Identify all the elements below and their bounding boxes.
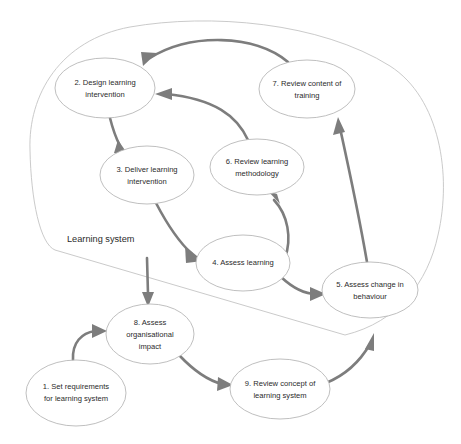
edge-8-to-9-line	[179, 355, 222, 384]
edge-3-to-8	[142, 258, 154, 307]
diagram-canvas: Learning system	[0, 0, 461, 444]
node-1-set-requirements[interactable]: 1. Set requirements for learning system	[26, 360, 126, 426]
node-6-label-line-2: methodology	[235, 169, 279, 178]
edge-3-to-8-line	[147, 258, 148, 294]
edge-8-to-9	[179, 355, 233, 391]
edge-1-to-8-arrowhead	[92, 324, 107, 338]
node-6-shape[interactable]	[210, 139, 304, 195]
edge-7-to-2-line	[150, 40, 288, 62]
learning-system-boundary-label: Learning system	[67, 234, 135, 244]
edge-9-to-5	[326, 333, 374, 383]
edge-4-to-5	[281, 277, 326, 301]
edge-5-to-7-arrowhead	[333, 117, 345, 135]
node-4-assess-learning[interactable]: 4. Assess learning	[196, 235, 290, 291]
node-3-deliver-learning-intervention[interactable]: 3. Deliver learning intervention	[100, 146, 194, 204]
node-2-label-line-1: 2. Design learning	[74, 78, 135, 87]
node-7-review-content-of-training[interactable]: 7. Review content of training	[259, 60, 355, 118]
node-1-label-line-1: 1. Set requirements	[43, 382, 109, 391]
node-8-assess-organisational-impact[interactable]: 8. Assess organisational impact	[106, 304, 194, 364]
node-2-design-learning-intervention[interactable]: 2. Design learning intervention	[55, 58, 155, 118]
node-7-shape[interactable]	[259, 60, 355, 118]
node-2-label-line-2: intervention	[85, 90, 124, 99]
edge-7-to-2-arrowhead	[141, 52, 157, 66]
node-4-label-line-1: 4. Assess learning	[212, 258, 274, 267]
node-6-review-learning-methodology[interactable]: 6. Review learning methodology	[210, 139, 304, 195]
node-8-label-line-3: impact	[139, 342, 162, 351]
edge-6-to-2-arrowhead	[155, 88, 172, 100]
learning-system-diagram: Learning system	[0, 0, 461, 444]
node-5-assess-change-in-behaviour[interactable]: 5. Assess change in behaviour	[322, 262, 418, 318]
edge-6-to-2-line	[166, 94, 248, 140]
edge-7-to-2	[141, 40, 288, 66]
edge-5-to-7-line	[340, 128, 367, 262]
edge-6-to-2	[155, 88, 248, 140]
node-7-label-line-1: 7. Review content of	[273, 79, 343, 88]
edge-9-to-5-arrowhead	[365, 333, 374, 351]
node-9-label-line-1: 9. Review concept of	[245, 379, 316, 388]
node-3-label-line-1: 3. Deliver learning	[116, 165, 177, 174]
node-6-label-line-1: 6. Review learning	[226, 157, 288, 166]
node-8-label-line-2: organisational	[126, 330, 174, 339]
edge-9-to-5-line	[326, 344, 370, 383]
node-3-shape[interactable]	[100, 146, 194, 204]
node-7-label-line-2: training	[295, 91, 320, 100]
node-8-label-line-1: 8. Assess	[134, 318, 167, 327]
edge-1-to-8	[73, 324, 107, 360]
node-9-label-line-2: learning system	[253, 391, 306, 400]
node-1-shape[interactable]	[26, 360, 126, 426]
node-5-shape[interactable]	[322, 262, 418, 318]
node-3-label-line-2: intervention	[127, 177, 166, 186]
edge-5-to-7	[333, 117, 367, 262]
edge-3-to-4-line	[156, 203, 192, 254]
node-2-shape[interactable]	[55, 58, 155, 118]
node-9-shape[interactable]	[230, 359, 330, 419]
node-5-label-line-1: 5. Assess change in	[336, 280, 404, 289]
node-5-label-line-2: behaviour	[353, 292, 387, 301]
node-1-label-line-2: for learning system	[44, 394, 108, 403]
node-9-review-concept-of-learning-system[interactable]: 9. Review concept of learning system	[230, 359, 330, 419]
edge-1-to-8-line	[73, 331, 95, 360]
edge-3-to-4	[156, 203, 203, 263]
